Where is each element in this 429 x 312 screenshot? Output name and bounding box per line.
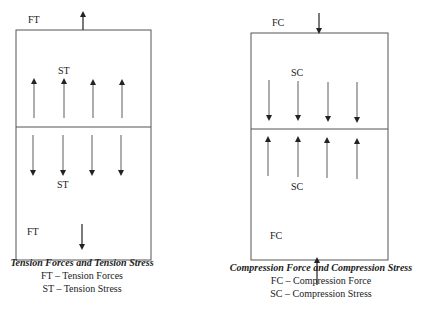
compression-block	[251, 13, 388, 285]
tension-legend-st: ST – Tension Stress	[2, 282, 162, 295]
tension-stress-arrows-lower	[33, 135, 121, 173]
compression-force-label-top: FC	[272, 18, 284, 28]
tension-force-label-top: FT	[28, 15, 40, 25]
tension-force-label-bottom: FT	[27, 227, 39, 237]
compression-force-label-bottom: FC	[270, 231, 282, 241]
tension-stress-arrows-upper	[34, 81, 122, 118]
tension-block	[16, 14, 151, 260]
compression-stress-label-bottom: SC	[291, 182, 303, 192]
tension-caption-title: Tension Forces and Tension Stress	[2, 256, 162, 269]
compression-caption-title: Compression Force and Compression Stress	[218, 261, 424, 274]
compression-caption: Compression Force and Compression Stress…	[218, 261, 424, 300]
compression-stress-arrows-lower	[268, 139, 357, 179]
tension-stress-label-top: ST	[58, 66, 70, 76]
compression-legend-sc: SC – Compression Stress	[218, 287, 424, 300]
compression-stress-arrows-upper	[269, 80, 357, 120]
tension-stress-label-bottom: ST	[57, 180, 69, 190]
compression-stress-label-top: SC	[291, 68, 303, 78]
tension-legend-ft: FT – Tension Forces	[2, 269, 162, 282]
compression-legend-fc: FC – Compression Force	[218, 274, 424, 287]
tension-caption: Tension Forces and Tension Stress FT – T…	[2, 256, 162, 295]
